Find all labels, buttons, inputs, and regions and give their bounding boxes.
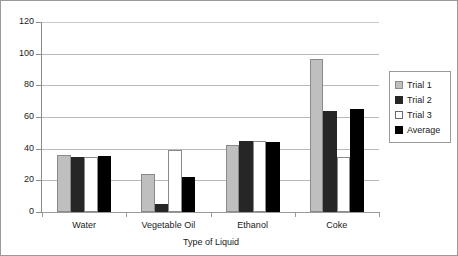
x-axis-title: Type of Liquid xyxy=(42,237,380,248)
x-axis-category-label: Water xyxy=(42,220,126,231)
x-axis-tick xyxy=(211,213,212,217)
bar xyxy=(266,142,280,212)
bar xyxy=(84,157,98,212)
bar xyxy=(337,157,351,212)
legend-item-label: Trial 1 xyxy=(407,80,432,90)
bar xyxy=(182,177,196,212)
chart-legend: Trial 1Trial 2Trial 3Average xyxy=(389,71,451,143)
plot-area xyxy=(42,22,379,212)
y-axis-tick xyxy=(36,212,41,213)
x-axis-tick xyxy=(126,213,127,217)
x-axis-category-label: Vegetable Oil xyxy=(126,220,210,231)
x-axis-tick xyxy=(295,213,296,217)
y-axis-tick-label: 20 xyxy=(2,175,34,184)
x-axis-category-label: Ethanol xyxy=(211,220,295,231)
bar xyxy=(310,59,324,212)
bar xyxy=(226,145,240,212)
gridline xyxy=(42,85,379,86)
gridline xyxy=(42,22,379,23)
legend-item-label: Trial 3 xyxy=(407,110,432,120)
y-axis-tick xyxy=(36,117,41,118)
bar xyxy=(57,155,71,212)
y-axis-tick xyxy=(36,149,41,150)
x-axis-category-label: Coke xyxy=(295,220,379,231)
legend-swatch-icon xyxy=(395,96,403,104)
x-axis-tick xyxy=(42,213,43,217)
y-axis-tick-label: 60 xyxy=(2,112,34,121)
legend-item-label: Average xyxy=(407,125,440,135)
bar xyxy=(141,174,155,212)
y-axis-tick xyxy=(36,22,41,23)
legend-swatch-icon xyxy=(395,111,403,119)
y-axis-tick-label: 80 xyxy=(2,80,34,89)
legend-swatch-icon xyxy=(395,81,403,89)
bar xyxy=(350,109,364,212)
bar xyxy=(98,156,112,212)
x-axis-tick xyxy=(379,213,380,217)
y-axis-tick xyxy=(36,54,41,55)
legend-swatch-icon xyxy=(395,126,403,134)
legend-item[interactable]: Trial 1 xyxy=(395,77,446,92)
gridline xyxy=(42,54,379,55)
legend-item[interactable]: Trial 2 xyxy=(395,92,446,107)
bar xyxy=(155,204,169,212)
legend-item[interactable]: Trial 3 xyxy=(395,107,446,122)
y-axis-tick-label: 40 xyxy=(2,144,34,153)
bar xyxy=(253,141,267,212)
legend-item-label: Trial 2 xyxy=(407,95,432,105)
legend-item[interactable]: Average xyxy=(395,122,446,137)
y-axis-labels: 020406080100120 xyxy=(1,1,34,256)
bar xyxy=(323,111,337,212)
y-axis-tick-label: 0 xyxy=(2,207,34,216)
bar-chart-figure: 020406080100120 WaterVegetable OilEthano… xyxy=(0,0,458,256)
y-axis-tick-label: 100 xyxy=(2,49,34,58)
y-axis-tick-label: 120 xyxy=(2,17,34,26)
y-axis-tick xyxy=(36,85,41,86)
bar xyxy=(71,157,85,212)
y-axis-tick xyxy=(36,180,41,181)
bar xyxy=(168,150,182,212)
bar xyxy=(239,141,253,212)
